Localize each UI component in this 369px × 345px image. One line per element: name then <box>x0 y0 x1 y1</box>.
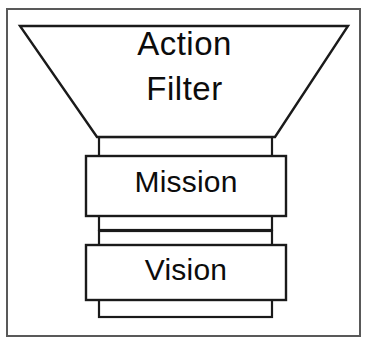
vision-box <box>86 245 286 300</box>
mission-box <box>86 156 286 216</box>
diagram-canvas: Action Filter Mission Vision <box>0 0 369 345</box>
diagram-svg <box>0 0 369 345</box>
